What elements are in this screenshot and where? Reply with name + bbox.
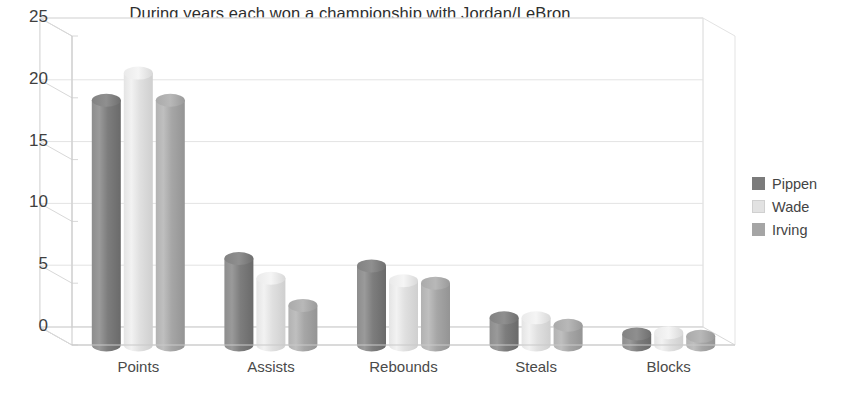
legend-item-label: Irving: [772, 222, 807, 238]
legend-item: Wade: [752, 195, 844, 218]
y-axis-tick-label: 10: [2, 192, 48, 212]
y-axis-tick-label: 5: [2, 254, 48, 274]
legend-item-label: Pippen: [772, 176, 817, 192]
legend-swatch-icon: [752, 200, 765, 213]
legend-item-label: Wade: [772, 199, 809, 215]
x-axis-tick-label: Assists: [205, 358, 338, 375]
legend-item: Irving: [752, 218, 844, 241]
chart-legend: Pippen Wade Irving: [752, 172, 844, 241]
legend-item: Pippen: [752, 172, 844, 195]
x-axis-tick-label: Rebounds: [337, 358, 470, 375]
x-axis-tick-label: Blocks: [602, 358, 735, 375]
x-axis-tick-label: Points: [72, 358, 205, 375]
x-axis-tick-label: Steals: [470, 358, 603, 375]
legend-swatch-icon: [752, 223, 765, 236]
plot-area: [0, 0, 846, 393]
y-axis-tick-label: 25: [2, 7, 48, 27]
chart-container: During years each won a championship wit…: [0, 0, 846, 393]
legend-swatch-icon: [752, 177, 765, 190]
y-axis-tick-label: 20: [2, 69, 48, 89]
y-axis-tick-label: 0: [2, 316, 48, 336]
y-axis-tick-label: 15: [2, 131, 48, 151]
